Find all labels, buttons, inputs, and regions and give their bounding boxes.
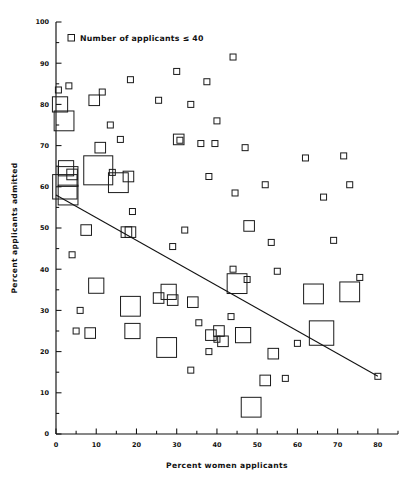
y-axis-tick-labels: 0102030405060708090100 <box>35 18 49 438</box>
x-axis-tick-labels: 01020304050607080 <box>54 441 383 449</box>
data-point-marker <box>157 338 177 358</box>
x-tick-label: 70 <box>333 441 343 449</box>
data-point-marker <box>188 297 199 308</box>
legend-label: Number of applicants ≤ 40 <box>80 34 204 43</box>
x-tick-label: 60 <box>293 441 303 449</box>
data-point-marker <box>268 239 274 245</box>
data-point-marker <box>235 328 250 343</box>
data-point-marker <box>54 111 74 131</box>
data-point-marker <box>107 122 113 128</box>
y-tick-label: 70 <box>40 142 50 150</box>
data-point-marker <box>81 225 92 236</box>
legend-marker-icon <box>68 35 75 42</box>
data-point-marker <box>302 155 308 161</box>
data-point-marker <box>77 307 83 313</box>
y-tick-label: 90 <box>40 60 50 68</box>
y-tick-label: 10 <box>40 389 50 397</box>
data-point-marker <box>73 328 79 334</box>
data-point-marker <box>121 296 141 316</box>
data-point-marker <box>127 77 133 83</box>
data-point-marker <box>274 268 280 274</box>
data-point-marker <box>206 174 212 180</box>
axes <box>56 22 398 434</box>
data-point-marker <box>58 161 73 176</box>
data-point-marker <box>206 349 212 355</box>
data-point-marker <box>206 330 217 341</box>
x-axis-title: Percent women applicants <box>166 461 288 470</box>
data-point-marker <box>214 118 220 124</box>
data-point-marker <box>214 336 220 342</box>
data-point-marker <box>212 141 218 147</box>
data-point-marker <box>125 323 140 338</box>
data-point-marker <box>89 278 104 293</box>
data-point-marker <box>156 97 162 103</box>
x-tick-label: 30 <box>172 441 182 449</box>
data-point-marker <box>340 282 360 302</box>
data-point-marker <box>321 194 327 200</box>
data-point-marker <box>347 182 353 188</box>
x-tick-label: 40 <box>212 441 222 449</box>
data-point-marker <box>230 54 236 60</box>
scatter-plot-figure: 0102030405060708090100 01020304050607080… <box>0 0 409 487</box>
data-point-markers <box>52 54 380 417</box>
data-point-marker <box>214 326 225 337</box>
data-point-marker <box>304 284 324 304</box>
data-point-marker <box>244 221 255 232</box>
x-tick-label: 80 <box>373 441 383 449</box>
data-point-marker <box>260 375 271 386</box>
y-tick-label: 80 <box>40 101 50 109</box>
data-point-marker <box>204 79 210 85</box>
x-axis-ticks <box>56 429 398 435</box>
y-tick-label: 40 <box>40 266 50 274</box>
data-point-marker <box>117 136 123 142</box>
data-point-marker <box>282 375 288 381</box>
data-point-marker <box>129 209 135 215</box>
x-tick-label: 20 <box>132 441 142 449</box>
data-point-marker <box>198 141 204 147</box>
data-point-marker <box>85 328 96 339</box>
data-point-marker <box>89 95 100 106</box>
data-point-marker <box>182 227 188 233</box>
data-point-marker <box>177 137 183 143</box>
data-point-marker <box>125 227 136 238</box>
x-tick-label: 10 <box>92 441 102 449</box>
data-point-marker <box>262 182 268 188</box>
data-point-marker <box>241 397 261 417</box>
y-tick-label: 0 <box>44 430 49 438</box>
data-point-marker <box>218 336 229 347</box>
legend: Number of applicants ≤ 40 <box>68 34 204 43</box>
data-point-marker <box>357 274 363 280</box>
data-point-marker <box>268 348 279 359</box>
y-axis-title: Percent applicants admitted <box>10 162 19 293</box>
data-point-marker <box>188 101 194 107</box>
data-point-marker <box>99 89 105 95</box>
data-point-marker <box>69 252 75 258</box>
y-tick-label: 20 <box>40 348 50 356</box>
plot-canvas: 0102030405060708090100 01020304050607080… <box>0 0 409 487</box>
data-point-marker <box>230 266 236 272</box>
data-point-marker <box>153 293 164 304</box>
y-tick-label: 30 <box>40 307 50 315</box>
data-point-marker <box>95 142 106 153</box>
y-tick-label: 100 <box>35 18 49 26</box>
data-point-marker <box>242 145 248 151</box>
y-tick-label: 50 <box>40 224 50 232</box>
data-point-marker <box>228 314 234 320</box>
data-point-marker <box>331 237 337 243</box>
data-point-marker <box>232 190 238 196</box>
x-tick-label: 50 <box>253 441 263 449</box>
data-point-marker <box>309 321 333 345</box>
data-point-marker <box>174 68 180 74</box>
data-point-marker <box>66 83 72 89</box>
data-point-marker <box>196 320 202 326</box>
y-axis-ticks <box>56 22 62 434</box>
data-point-marker <box>188 367 194 373</box>
data-point-marker <box>294 340 300 346</box>
data-point-marker <box>161 284 176 299</box>
data-point-marker <box>341 153 347 159</box>
y-tick-label: 60 <box>40 183 50 191</box>
x-tick-label: 0 <box>54 441 59 449</box>
data-point-marker <box>170 244 176 250</box>
